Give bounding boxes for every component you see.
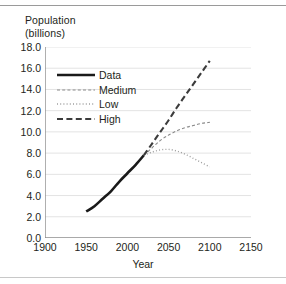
y-tick-label: 10.0 — [7, 126, 41, 138]
legend-line-sample-icon — [57, 84, 95, 96]
series-line-data — [86, 155, 144, 211]
legend-label: High — [99, 113, 121, 125]
x-tick-label: 2000 — [105, 241, 149, 253]
y-tick-label: 2.0 — [7, 211, 41, 223]
y-tick-label: 6.0 — [7, 168, 41, 180]
x-tick-label: 2150 — [229, 241, 273, 253]
legend-line-sample-icon — [57, 69, 95, 81]
legend-item-data: Data — [57, 68, 162, 83]
top-divider-rule — [0, 5, 286, 6]
y-tick-label: 8.0 — [7, 147, 41, 159]
x-axis-title: Year — [0, 258, 286, 270]
chart-legend: DataMediumLowHigh — [57, 68, 162, 126]
legend-item-medium: Medium — [57, 83, 162, 98]
y-tick-label: 18.0 — [7, 41, 41, 53]
legend-line-sample-icon — [57, 98, 95, 110]
x-tick-label: 1950 — [64, 241, 108, 253]
legend-label: Data — [99, 69, 121, 81]
y-tick-label: 14.0 — [7, 83, 41, 95]
legend-item-low: Low — [57, 97, 162, 112]
bottom-divider-rule — [0, 277, 286, 278]
legend-label: Medium — [99, 84, 136, 96]
legend-line-sample-icon — [57, 113, 95, 125]
y-tick-label: 4.0 — [7, 190, 41, 202]
x-tick-label: 2050 — [147, 241, 191, 253]
x-tick-label: 2100 — [188, 241, 232, 253]
y-axis-title: Population (billions) — [25, 14, 76, 39]
legend-label: Low — [99, 98, 118, 110]
y-tick-label: 12.0 — [7, 105, 41, 117]
series-line-medium — [144, 122, 210, 155]
chart-page: Population (billions) 0.02.04.06.08.010.… — [0, 0, 286, 284]
x-tick-label: 1900 — [23, 241, 67, 253]
series-line-low — [144, 149, 210, 167]
legend-item-high: High — [57, 112, 162, 127]
y-tick-label: 16.0 — [7, 62, 41, 74]
